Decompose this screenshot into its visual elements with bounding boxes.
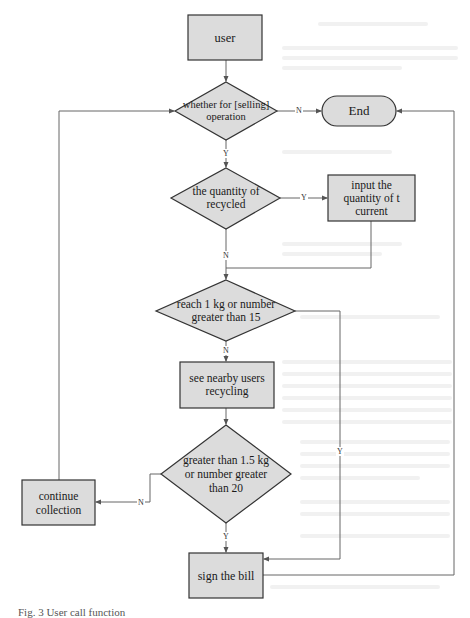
node-sign-bill-label: sign the bill: [189, 553, 263, 598]
node-input-quantity-label: input the quantity of t current: [332, 175, 411, 221]
node-continue-label: continue collection: [22, 480, 95, 525]
node-selling-decision-label: whether for [selling] operation: [178, 96, 274, 126]
edge-label-15kg-no: N: [137, 498, 145, 507]
edge-15kg-no-to-continue: [96, 474, 161, 502]
edge-label-selling-yes: Y: [222, 149, 230, 158]
edge-label-quantity-yes: Y: [300, 193, 308, 202]
edge-label-1kg-no: N: [222, 346, 230, 355]
node-end-label: End: [322, 96, 396, 126]
edge-1kg-yes-to-sign: [264, 311, 340, 559]
edge-input-to-1kg: [226, 221, 371, 268]
node-quantity-decision-label: the quantity of recycled: [190, 182, 262, 214]
edge-label-quantity-no: N: [222, 251, 230, 260]
node-1kg-decision-label: reach 1 kg or number greater than 15: [170, 295, 282, 327]
node-15kg-decision-label: greater than 1.5 kg or number greater th…: [178, 452, 274, 496]
edge-label-15kg-yes: Y: [222, 532, 230, 541]
figure-caption: Fig. 3 User call function: [18, 606, 125, 618]
node-see-nearby-label: see nearby users recycling: [186, 362, 268, 408]
edge-label-1kg-yes: Y: [336, 447, 344, 456]
edge-label-selling-no: N: [295, 106, 303, 115]
node-user-label: user: [188, 15, 262, 60]
edge-continue-to-selling: [59, 111, 174, 480]
